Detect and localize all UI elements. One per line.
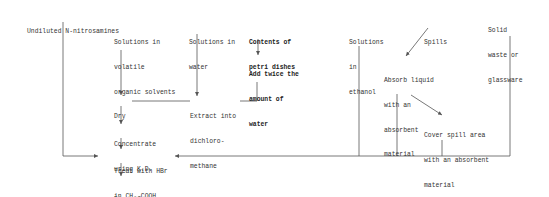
node-cover-spill: Cover spill area with an absorbent mater… xyxy=(424,116,489,197)
node-solid-waste: Solid waste or glassware xyxy=(488,11,523,101)
node-add-water: Add twice the amount of water xyxy=(249,55,299,145)
node-solutions-in-water: Solutions in water xyxy=(189,23,235,89)
node-discard: Discard xyxy=(114,180,141,197)
disposal-flowchart: Undiluted N-nitrosamines Solutions in vo… xyxy=(0,0,549,197)
node-spills: Spills xyxy=(424,23,447,64)
node-extract-dichloromethane: Extract into dichloro- methane xyxy=(190,97,236,187)
node-undiluted-nitrosamines: Undiluted N-nitrosamines xyxy=(27,12,119,53)
node-solutions-in-ethanol: Solutions in ethanol xyxy=(349,23,384,113)
